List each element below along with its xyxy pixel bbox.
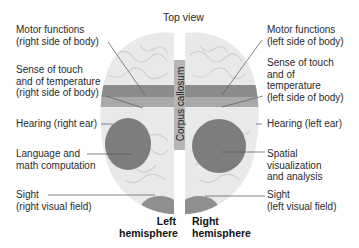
- label-motor-right: Motor functions (left side of body): [267, 24, 344, 47]
- label-motor-left: Motor functions (right side of body): [16, 24, 99, 47]
- label-language: Language and math computation: [16, 148, 96, 171]
- label-sight-left: Sight (right visual field): [16, 189, 92, 212]
- left-hemisphere-label: Left hemisphere: [119, 215, 176, 239]
- motor-band-left: [90, 85, 180, 97]
- spatial-region: [192, 119, 246, 173]
- label-touch-right: Sense of touch and of temperature (left …: [267, 57, 344, 103]
- label-hearing-right: Hearing (left ear): [267, 118, 342, 130]
- label-touch-left: Sense of touch and of temperature (right…: [16, 64, 101, 99]
- corpus-callosum-label: Corpus callosum: [175, 67, 186, 141]
- touch-band-right: [180, 97, 270, 107]
- right-hemisphere-shape: [179, 25, 270, 225]
- diagram-title: Top view: [163, 12, 204, 24]
- language-region: [105, 118, 151, 170]
- label-hearing-left: Hearing (right ear): [16, 118, 97, 130]
- label-spatial: Spatial visualization and analysis: [267, 148, 323, 183]
- label-sight-right: Sight (left visual field): [267, 189, 336, 212]
- right-hemisphere-label: Right hemisphere: [192, 215, 251, 239]
